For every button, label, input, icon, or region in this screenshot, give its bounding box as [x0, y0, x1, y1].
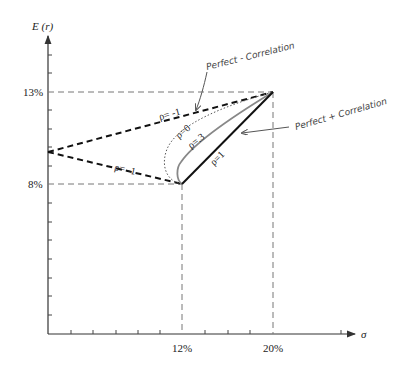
rho-neg1-lower-label: ρ= -1	[114, 161, 137, 177]
rho-1-label: ρ=1	[208, 149, 227, 168]
y-tick-8: 8%	[28, 178, 43, 190]
axes	[48, 36, 355, 334]
note-positive-text: Perfect + Correlation	[294, 96, 388, 132]
frontier-curves	[48, 92, 273, 184]
x-tick-12: 12%	[172, 342, 192, 354]
rho-neg1-upper-label: ρ= -1	[158, 106, 182, 122]
note-negative-arrow	[196, 72, 207, 110]
guide-lines	[48, 92, 273, 334]
note-negative-text: Perfect - Correlation	[205, 40, 296, 72]
x-axis-label: σ	[361, 328, 367, 340]
rho-neg1-upper-line	[48, 92, 273, 152]
y-tick-13: 13%	[23, 86, 43, 98]
portfolio-frontier-chart: E (r) σ 13% 8% 12% 20% ρ= -1 ρ= -1 ρ=0 ρ…	[0, 0, 412, 366]
x-tick-20: 20%	[263, 342, 283, 354]
note-positive-arrow	[242, 127, 289, 133]
y-axis-label: E (r)	[31, 20, 53, 33]
rho-03-label: ρ=.3	[185, 131, 206, 151]
